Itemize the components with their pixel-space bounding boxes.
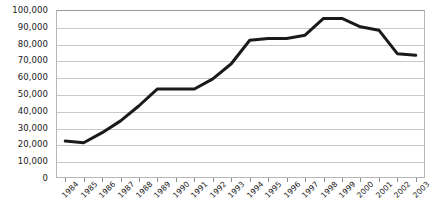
y-axis-tick-label: 10,000 [18,156,48,166]
y-axis-tick-label: 0 [42,173,48,183]
x-axis-tick [102,178,103,182]
y-axis-tick-label: 40,000 [18,106,48,116]
x-axis-tick-label: 1993 [226,180,246,200]
x-axis-tick [342,178,343,182]
x-axis-tick-label: 2003 [411,180,430,200]
x-axis-tick [250,178,251,182]
x-axis-tick [139,178,140,182]
y-axis-tick-label: 60,000 [18,72,48,82]
y-axis-tick-label: 100,000 [12,5,48,15]
x-axis-tick [379,178,380,182]
plot-area [56,10,425,178]
x-axis-tick-label: 1994 [245,180,265,200]
x-axis-tick-label: 1992 [208,180,228,200]
x-axis-tick [305,178,306,182]
x-axis-tick [416,178,417,182]
gridline [57,145,424,146]
x-axis-tick [121,178,122,182]
x-axis-tick-label: 1986 [97,180,117,200]
y-axis-tick-label: 20,000 [18,139,48,149]
x-axis-tick [360,178,361,182]
x-axis-tick [287,178,288,182]
gridline [57,61,424,62]
y-axis-tick-label: 70,000 [18,55,48,65]
x-axis-tick [213,178,214,182]
x-axis-tick-label: 1996 [282,180,302,200]
x-axis: 1984198519861987198819891990199119921993… [56,183,430,214]
gridline [57,112,424,113]
y-axis-tick-label: 50,000 [18,89,48,99]
line-chart: 010,00020,00030,00040,00050,00060,00070,… [0,0,430,214]
gridline [57,95,424,96]
x-axis-tick-label: 1989 [153,180,173,200]
x-axis-tick [231,178,232,182]
gridline [57,28,424,29]
x-axis-tick-label: 1988 [134,180,154,200]
x-axis-tick-label: 2002 [392,180,412,200]
x-axis-tick [65,178,66,182]
x-axis-tick [84,178,85,182]
x-axis-tick-label: 1998 [319,180,339,200]
x-axis-tick-label: 1984 [60,180,80,200]
y-axis: 010,00020,00030,00040,00050,00060,00070,… [0,0,52,188]
x-axis-tick-label: 2000 [355,180,375,200]
x-axis-tick [268,178,269,182]
x-axis-tick [324,178,325,182]
x-axis-tick [176,178,177,182]
x-axis-tick [397,178,398,182]
gridline [57,45,424,46]
x-axis-tick-label: 1995 [263,180,283,200]
x-axis-tick-label: 1991 [189,180,209,200]
gridline [57,162,424,163]
x-axis-tick-label: 1999 [337,180,357,200]
y-axis-tick-label: 80,000 [18,39,48,49]
y-axis-tick-label: 30,000 [18,123,48,133]
x-axis-tick-label: 1985 [79,180,99,200]
x-axis-tick-label: 1990 [171,180,191,200]
gridline [57,129,424,130]
gridline [57,78,424,79]
y-axis-tick-label: 90,000 [18,22,48,32]
x-axis-tick-label: 1987 [116,180,136,200]
x-axis-tick [194,178,195,182]
x-axis-tick-label: 2001 [374,180,394,200]
x-axis-tick-label: 1997 [300,180,320,200]
x-axis-tick [157,178,158,182]
